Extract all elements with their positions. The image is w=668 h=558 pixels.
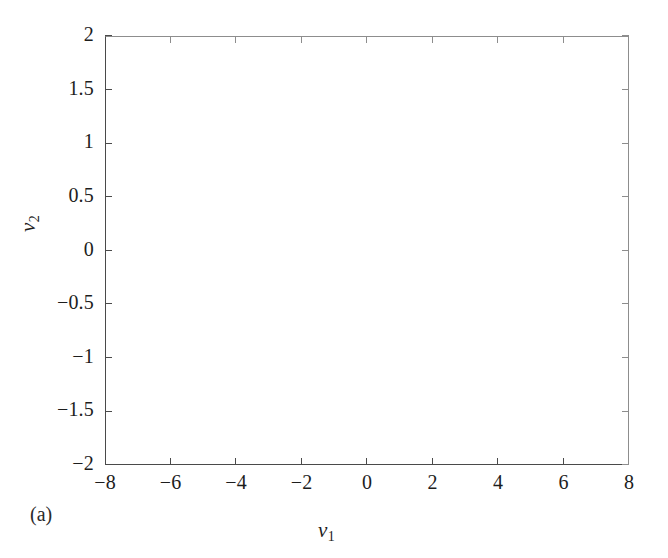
y-tick-right--1.5 bbox=[622, 411, 629, 412]
y-tick-1.5 bbox=[105, 89, 112, 90]
y-tick-0.5 bbox=[105, 196, 112, 197]
y-tick-label-2: 2 bbox=[0, 23, 94, 46]
y-tick-label-1: 1 bbox=[0, 130, 94, 153]
x-tick-label--2: −2 bbox=[272, 471, 332, 494]
x-axis-title-text: v bbox=[318, 518, 327, 542]
x-tick--2 bbox=[301, 458, 302, 465]
x-tick-top--2 bbox=[301, 36, 302, 43]
x-tick-top-4 bbox=[497, 36, 498, 43]
x-tick-top--6 bbox=[170, 36, 171, 43]
y-tick-label-0.5: 0.5 bbox=[0, 184, 94, 207]
x-tick-top-6 bbox=[563, 36, 564, 43]
x-tick-0 bbox=[366, 458, 367, 465]
x-tick--6 bbox=[170, 458, 171, 465]
y-tick-label--0.5: −0.5 bbox=[0, 291, 94, 314]
y-tick-right--1 bbox=[622, 357, 629, 358]
x-tick-label-4: 4 bbox=[468, 471, 528, 494]
y-tick-right-1 bbox=[622, 143, 629, 144]
y-tick-2 bbox=[105, 35, 112, 36]
plot-axes-frame bbox=[105, 36, 629, 465]
y-tick-right--0.5 bbox=[622, 303, 629, 304]
y-tick-right--2 bbox=[622, 464, 629, 465]
x-tick-top--4 bbox=[235, 36, 236, 43]
y-tick-1 bbox=[105, 143, 112, 144]
y-tick--0.5 bbox=[105, 303, 112, 304]
x-tick-label-8: 8 bbox=[599, 471, 659, 494]
y-tick-label-1.5: 1.5 bbox=[0, 77, 94, 100]
x-tick--4 bbox=[235, 458, 236, 465]
y-axis-title: v2 bbox=[16, 215, 43, 232]
y-tick-right-0 bbox=[622, 250, 629, 251]
x-tick-top-2 bbox=[432, 36, 433, 43]
figure-panel: −2−1.5−1−0.500.511.52−8−6−4−202468 v2 v1… bbox=[0, 0, 668, 558]
x-tick-label-2: 2 bbox=[403, 471, 463, 494]
x-tick-label--6: −6 bbox=[141, 471, 201, 494]
x-tick-4 bbox=[497, 458, 498, 465]
x-tick-2 bbox=[432, 458, 433, 465]
y-tick-label-0: 0 bbox=[0, 238, 94, 261]
y-axis-title-subscript: 2 bbox=[27, 215, 42, 222]
x-tick-label--4: −4 bbox=[206, 471, 266, 494]
y-tick-right-0.5 bbox=[622, 196, 629, 197]
y-tick-label--1.5: −1.5 bbox=[0, 398, 94, 421]
y-axis-title-text: v bbox=[16, 223, 40, 232]
x-tick-label-0: 0 bbox=[337, 471, 397, 494]
y-tick--1 bbox=[105, 357, 112, 358]
x-tick-label--8: −8 bbox=[75, 471, 135, 494]
y-tick-right-2 bbox=[622, 35, 629, 36]
panel-label: (a) bbox=[30, 503, 52, 526]
y-tick-right-1.5 bbox=[622, 89, 629, 90]
x-axis-title: v1 bbox=[318, 518, 335, 545]
y-tick-0 bbox=[105, 250, 112, 251]
x-tick-6 bbox=[563, 458, 564, 465]
y-tick-label--1: −1 bbox=[0, 345, 94, 368]
y-tick--2 bbox=[105, 464, 112, 465]
y-tick--1.5 bbox=[105, 411, 112, 412]
x-tick-top-0 bbox=[366, 36, 367, 43]
x-tick-label-6: 6 bbox=[534, 471, 594, 494]
x-axis-title-subscript: 1 bbox=[328, 529, 335, 544]
